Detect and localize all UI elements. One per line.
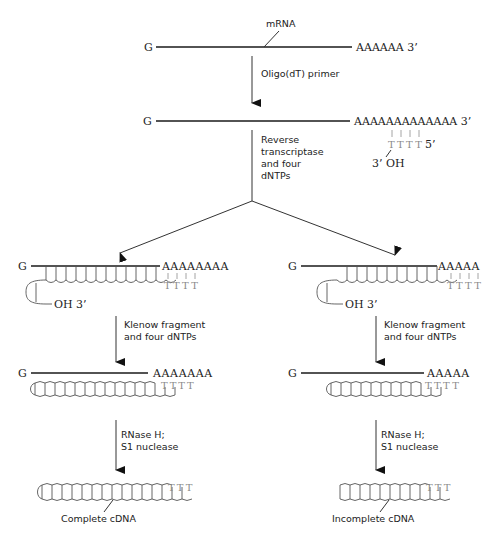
polya-tail: AAAAAAA	[152, 367, 213, 380]
five-prime-g: G	[18, 260, 27, 273]
step-label-line: and four dNTPs	[124, 331, 196, 342]
cdna-rungs	[46, 266, 156, 280]
five-prime-g: G	[288, 367, 297, 380]
base-pair-ticks	[392, 130, 419, 137]
hairpin-end	[327, 383, 332, 395]
oligo-dt-primer: TTTT	[164, 280, 200, 291]
step-label-line: Klenow fragment	[124, 319, 206, 330]
cdna-bottom-strand	[35, 395, 175, 397]
five-prime-g: G	[288, 260, 297, 273]
step-reverse-transcriptase: Reverse transcriptase and four dNTPs	[120, 130, 395, 255]
left-step-rnase: RNase H; S1 nuclease	[116, 420, 179, 470]
cdna-bottom-strand	[331, 395, 441, 397]
step-label-line: transcriptase	[261, 146, 324, 157]
polya-tail: AAAAAAAAAAAAA 3’	[353, 115, 471, 128]
mrna-label: mRNA	[266, 18, 296, 29]
step-label-line: Reverse	[261, 134, 299, 145]
stage-primed-mrna: G AAAAAAAAAAAAA 3’ TTTT 5’ 3’ OH	[143, 115, 471, 170]
primer-ticks	[451, 273, 478, 279]
right-step-rnase: RNase H; S1 nuclease	[376, 420, 439, 470]
hairpin-end	[38, 485, 43, 499]
right-step-klenow: Klenow fragment and four dNTPs	[376, 316, 466, 362]
right-duplex: G AAAAA TTTT	[288, 367, 470, 397]
step-label-line: Klenow fragment	[384, 319, 466, 330]
oh-leader-line	[386, 150, 391, 157]
polya-tail: AAAAAA 3’	[355, 41, 418, 54]
mrna-leader-line	[264, 31, 279, 47]
polya-tail: AAAAAAAA	[161, 260, 229, 273]
t-overhang: TTT	[168, 482, 194, 493]
cdna-bottom-strand	[340, 499, 450, 501]
left-step-klenow: Klenow fragment and four dNTPs	[116, 316, 206, 362]
step-label-line: RNase H;	[381, 429, 425, 440]
result-leader-line	[104, 500, 113, 512]
left-hybrid: G AAAAAAAA TTTT OH 3’	[18, 260, 229, 311]
primer-ticks	[168, 273, 195, 279]
oligo-dt-primer: TTTT	[388, 139, 424, 150]
duplex-rungs	[42, 485, 182, 499]
cdna-bottom-strand	[42, 499, 192, 501]
cdna-strand	[337, 280, 457, 283]
step-label-line: and four dNTPs	[384, 331, 456, 342]
left-duplex: G AAAAAAA TTTT	[18, 367, 213, 397]
three-prime-oh: OH 3’	[345, 298, 378, 311]
three-prime-oh: OH 3’	[54, 298, 87, 311]
cdna-top-strand	[331, 382, 421, 384]
result-label: Complete cDNA	[61, 513, 136, 524]
cdna-strand	[46, 280, 176, 283]
left-branch: G AAAAAAAA TTTT OH 3’	[18, 260, 229, 524]
primer-five-prime: 5’	[425, 138, 436, 151]
five-prime-g: G	[144, 41, 153, 54]
cdna-synthesis-diagram: G mRNA AAAAAA 3’ Oligo(dT) primer G AAAA…	[0, 0, 501, 541]
duplex-rungs	[35, 383, 175, 395]
step-oligo-dt: Oligo(dT) primer	[252, 56, 340, 103]
step-label-line: S1 nuclease	[381, 441, 439, 452]
step-label-line: S1 nuclease	[121, 441, 179, 452]
step-label-line: RNase H;	[121, 429, 165, 440]
cdna-top-strand	[35, 382, 155, 384]
cdna-top-strand	[42, 484, 172, 486]
polya-tail: AAAAA	[437, 260, 480, 273]
oligo-dt-primer: TTTT	[447, 280, 483, 291]
right-hybrid: G AAAAA TTTT OH 3’	[288, 260, 483, 311]
t-overhang: TTT	[426, 482, 452, 493]
arrow-branch-left-icon	[120, 201, 252, 253]
result-label: Incomplete cDNA	[332, 513, 415, 524]
right-incomplete-cdna: TTT Incomplete cDNA	[332, 482, 452, 524]
duplex-rungs	[340, 485, 440, 499]
stage-mrna: G mRNA AAAAAA 3’	[144, 18, 418, 54]
right-branch: G AAAAA TTTT OH 3’ Klenow fragm	[288, 260, 483, 524]
step-label-line: dNTPs	[261, 170, 291, 181]
oligo-dt-primer: TTTT	[425, 380, 461, 391]
polya-tail: AAAAA	[426, 367, 470, 380]
five-prime-g: G	[18, 367, 27, 380]
left-complete-cdna: TTT Complete cDNA	[38, 482, 195, 524]
oligo-dt-primer: TTTT	[161, 380, 195, 391]
arrow-branch-right-icon	[252, 201, 395, 255]
cdna-top-strand	[340, 484, 430, 486]
result-leader-line	[380, 500, 389, 512]
step-label: Oligo(dT) primer	[261, 68, 340, 79]
five-prime-g: G	[143, 115, 152, 128]
step-label-line: and four	[261, 158, 301, 169]
cdna-rungs	[347, 266, 437, 280]
primer-three-prime-oh: 3’ OH	[372, 157, 405, 170]
hairpin-end	[31, 383, 36, 395]
